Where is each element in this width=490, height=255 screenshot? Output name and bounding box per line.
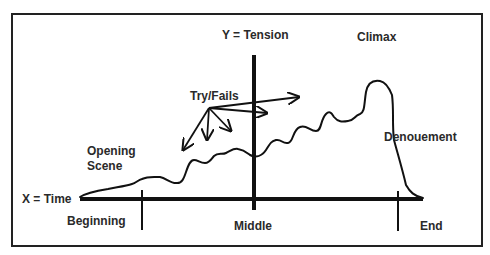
y-axis-label: Y = Tension [222, 28, 289, 42]
try-fails-label: Try/Fails [190, 89, 239, 103]
middle-label: Middle [234, 219, 272, 233]
plot-structure-diagram: Y = Tension Climax Try/Fails Opening Sce… [0, 0, 490, 255]
opening-scene-label-line1: Opening [87, 144, 136, 158]
end-label: End [420, 219, 443, 233]
opening-scene-label-line2: Scene [87, 159, 123, 173]
beginning-label: Beginning [67, 214, 126, 228]
denouement-label: Denouement [384, 130, 457, 144]
climax-label: Climax [357, 30, 397, 44]
x-axis-label: X = Time [22, 192, 72, 206]
tension-curve [80, 81, 423, 198]
